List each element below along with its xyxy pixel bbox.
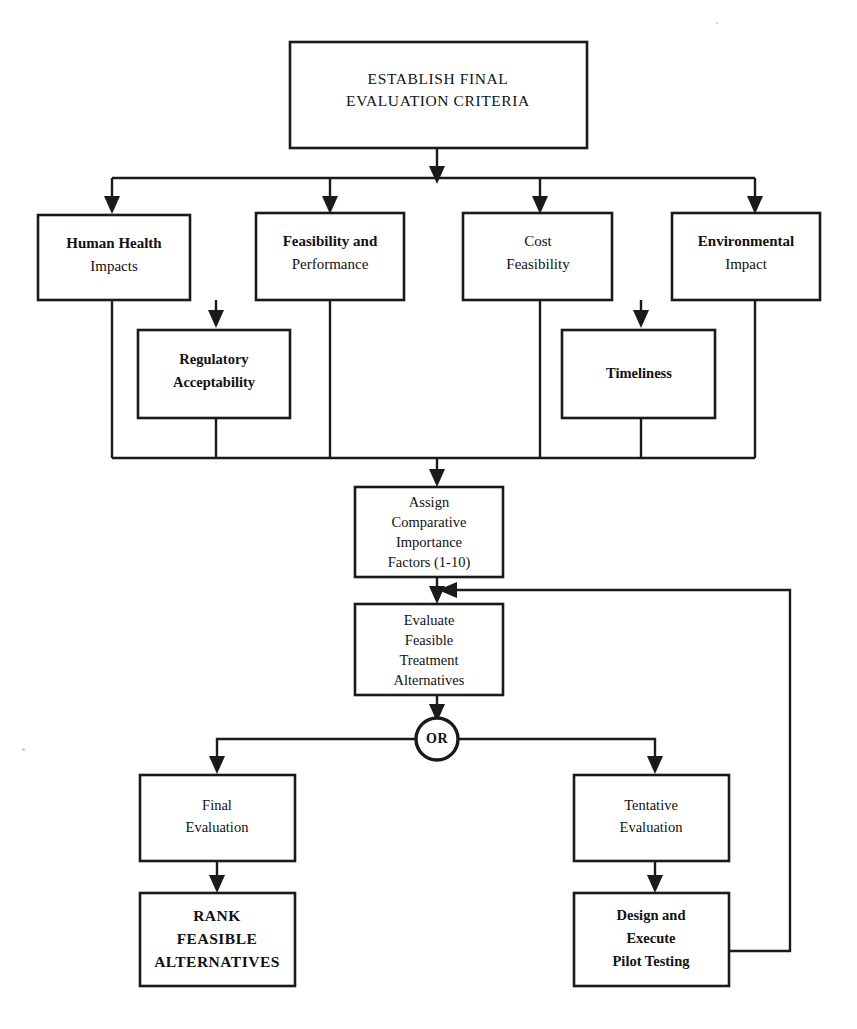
or-branch-left (217, 739, 415, 760)
cost-feasibility-line-2: Feasibility (506, 256, 570, 272)
arrowhead-regulatory-down (208, 310, 224, 328)
arrowhead-tentative-eval-down (647, 756, 663, 774)
scan-speck (716, 22, 718, 24)
final-evaluation-line-2: Evaluation (186, 819, 250, 835)
evaluate-line-2: Feasible (405, 632, 453, 648)
tentative-evaluation-box[interactable] (574, 775, 729, 861)
assign-line-4: Factors (1-10) (388, 554, 471, 571)
node-timeliness[interactable]: Timeliness (562, 330, 715, 418)
or-label: OR (426, 731, 448, 746)
node-evaluate-feasible-treatment-alternatives[interactable]: Evaluate Feasible Treatment Alternatives (355, 604, 503, 695)
human-health-line-2: Impacts (90, 258, 138, 274)
assign-line-1: Assign (409, 494, 450, 510)
assign-line-2: Comparative (392, 514, 467, 530)
node-regulatory-acceptability[interactable]: Regulatory Acceptability (138, 330, 290, 418)
rank-line-2: FEASIBLE (177, 930, 258, 947)
environmental-line-1: Environmental (698, 233, 794, 249)
evaluate-line-1: Evaluate (404, 612, 455, 628)
arrowhead-environmental-down (747, 196, 763, 214)
assign-line-3: Importance (396, 534, 462, 550)
arrowhead-final-eval-down (209, 756, 225, 774)
pilot-line-3: Pilot Testing (613, 953, 691, 969)
arrowhead-timeliness-down (633, 310, 649, 328)
cost-feasibility-line-1: Cost (524, 233, 552, 249)
or-branch-right (459, 739, 655, 760)
evaluate-line-4: Alternatives (394, 672, 465, 688)
timeliness-line-1: Timeliness (606, 365, 672, 381)
human-health-line-1: Human Health (66, 235, 162, 251)
arrowhead-rank-down (209, 875, 225, 893)
pilot-line-2: Execute (626, 930, 676, 946)
node-assign-comparative-importance-factors[interactable]: Assign Comparative Importance Factors (1… (355, 487, 503, 577)
evaluate-line-3: Treatment (399, 652, 458, 668)
node-cost-feasibility[interactable]: Cost Feasibility (463, 213, 612, 300)
final-evaluation-line-1: Final (202, 797, 232, 813)
environmental-line-2: Impact (725, 256, 767, 272)
arrowhead-feasibility-down (322, 196, 338, 214)
node-environmental-impact[interactable]: Environmental Impact (672, 213, 820, 300)
tentative-evaluation-line-1: Tentative (624, 797, 678, 813)
node-establish-final-evaluation-criteria[interactable]: ESTABLISH FINAL EVALUATION CRITERIA (290, 42, 587, 148)
establish-line-2: EVALUATION CRITERIA (346, 92, 530, 109)
rank-line-3: ALTERNATIVES (154, 953, 280, 970)
node-final-evaluation[interactable]: Final Evaluation (140, 775, 295, 861)
flowchart-canvas: ESTABLISH FINAL EVALUATION CRITERIA Huma… (0, 0, 857, 1029)
feasibility-line-1: Feasibility and (283, 233, 378, 249)
arrowhead-assign-down (429, 469, 445, 487)
arrowhead-establish-down (429, 166, 445, 184)
regulatory-line-1: Regulatory (179, 351, 249, 367)
establish-line-1: ESTABLISH FINAL (368, 70, 509, 87)
node-rank-feasible-alternatives[interactable]: RANK FEASIBLE ALTERNATIVES (140, 893, 295, 986)
node-feasibility-and-performance[interactable]: Feasibility and Performance (256, 213, 404, 300)
arrowhead-pilot-down (647, 875, 663, 893)
node-human-health-impacts[interactable]: Human Health Impacts (38, 215, 190, 300)
scan-speck (22, 748, 25, 751)
tentative-evaluation-line-2: Evaluation (620, 819, 684, 835)
regulatory-line-2: Acceptability (173, 374, 256, 390)
node-design-and-execute-pilot-testing[interactable]: Design and Execute Pilot Testing (574, 893, 729, 986)
arrowhead-cost-down (532, 196, 548, 214)
rank-line-1: RANK (193, 907, 241, 924)
node-tentative-evaluation[interactable]: Tentative Evaluation (574, 775, 729, 861)
node-or-decision[interactable]: OR (416, 718, 458, 760)
flowchart-svg: ESTABLISH FINAL EVALUATION CRITERIA Huma… (0, 0, 857, 1029)
arrowhead-feedback-left (438, 582, 457, 598)
feasibility-line-2: Performance (292, 256, 369, 272)
arrowhead-human-health-down (104, 196, 120, 214)
final-evaluation-box[interactable] (140, 775, 295, 861)
pilot-line-1: Design and (617, 907, 686, 923)
